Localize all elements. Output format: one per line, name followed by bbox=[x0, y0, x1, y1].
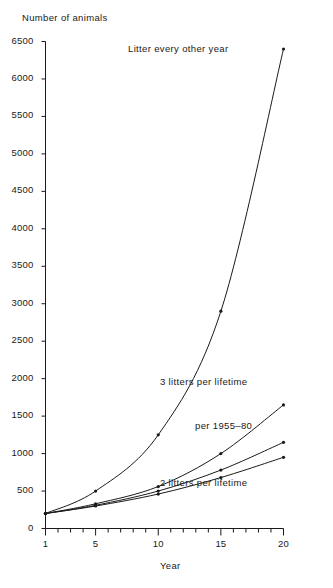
data-point-marker bbox=[157, 492, 160, 495]
data-point-marker bbox=[282, 441, 285, 444]
series-label: 2 litters per lifetime bbox=[160, 477, 247, 488]
series-label: per 1955–80 bbox=[195, 420, 252, 431]
series-label: Litter every other year bbox=[128, 43, 228, 54]
data-point-marker bbox=[157, 433, 160, 436]
x-tick-label: 20 bbox=[272, 538, 296, 549]
x-tick-label: 5 bbox=[84, 538, 108, 549]
data-point-marker bbox=[94, 504, 97, 507]
y-tick-label: 4000 bbox=[0, 222, 34, 233]
y-tick-label: 4500 bbox=[0, 184, 34, 195]
data-point-marker bbox=[94, 489, 97, 492]
data-point-marker bbox=[219, 468, 222, 471]
data-point-marker bbox=[282, 456, 285, 459]
y-tick-label: 6000 bbox=[0, 72, 34, 83]
data-point-marker bbox=[282, 47, 285, 50]
y-tick-label: 3000 bbox=[0, 297, 34, 308]
y-tick-label: 1000 bbox=[0, 447, 34, 458]
data-point-marker bbox=[219, 452, 222, 455]
data-point-marker bbox=[282, 403, 285, 406]
data-point-marker bbox=[44, 512, 47, 515]
y-tick-label: 2500 bbox=[0, 334, 34, 345]
y-tick-label: 5000 bbox=[0, 147, 34, 158]
data-point-marker bbox=[157, 489, 160, 492]
x-tick-label: 15 bbox=[209, 538, 233, 549]
y-tick-label: 500 bbox=[0, 484, 34, 495]
y-tick-label: 6500 bbox=[0, 35, 34, 46]
plot-area bbox=[0, 0, 333, 588]
y-tick-label: 2000 bbox=[0, 372, 34, 383]
series-label: 3 litters per lifetime bbox=[160, 376, 247, 387]
chart-figure: Number of animals Year 05001000150020002… bbox=[0, 0, 333, 588]
y-tick-label: 1500 bbox=[0, 409, 34, 420]
y-tick-label: 3500 bbox=[0, 259, 34, 270]
y-tick-label: 5500 bbox=[0, 109, 34, 120]
x-tick-label: 10 bbox=[146, 538, 170, 549]
y-tick-label: 0 bbox=[0, 522, 34, 533]
series-curve bbox=[46, 49, 284, 514]
data-point-marker bbox=[219, 310, 222, 313]
x-tick-label: 1 bbox=[34, 538, 58, 549]
